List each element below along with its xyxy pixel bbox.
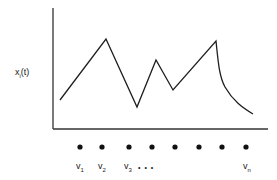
vertex-ellipsis: • • • [138, 164, 154, 171]
signal-trace [60, 39, 253, 114]
vertex-dot [77, 144, 82, 149]
vertex-dot [196, 144, 201, 149]
y-axis-label: xi(t) [15, 67, 29, 79]
vertex-label-v3: v3 [124, 161, 133, 173]
vertex-dot [219, 144, 224, 149]
vertex-label-v2: v2 [98, 161, 107, 173]
vertex-label-v1: v1 [76, 161, 85, 173]
vertex-dot [243, 144, 248, 149]
vertex-dot [172, 144, 177, 149]
vertex-label-vn: vn [243, 161, 251, 173]
vertex-dots [77, 144, 248, 149]
vertex-dot [126, 144, 131, 149]
diagram-canvas: xi(t) v1 v2 v3 • • • vn [0, 0, 277, 180]
vertex-dot [99, 144, 104, 149]
vertex-dot [149, 144, 154, 149]
